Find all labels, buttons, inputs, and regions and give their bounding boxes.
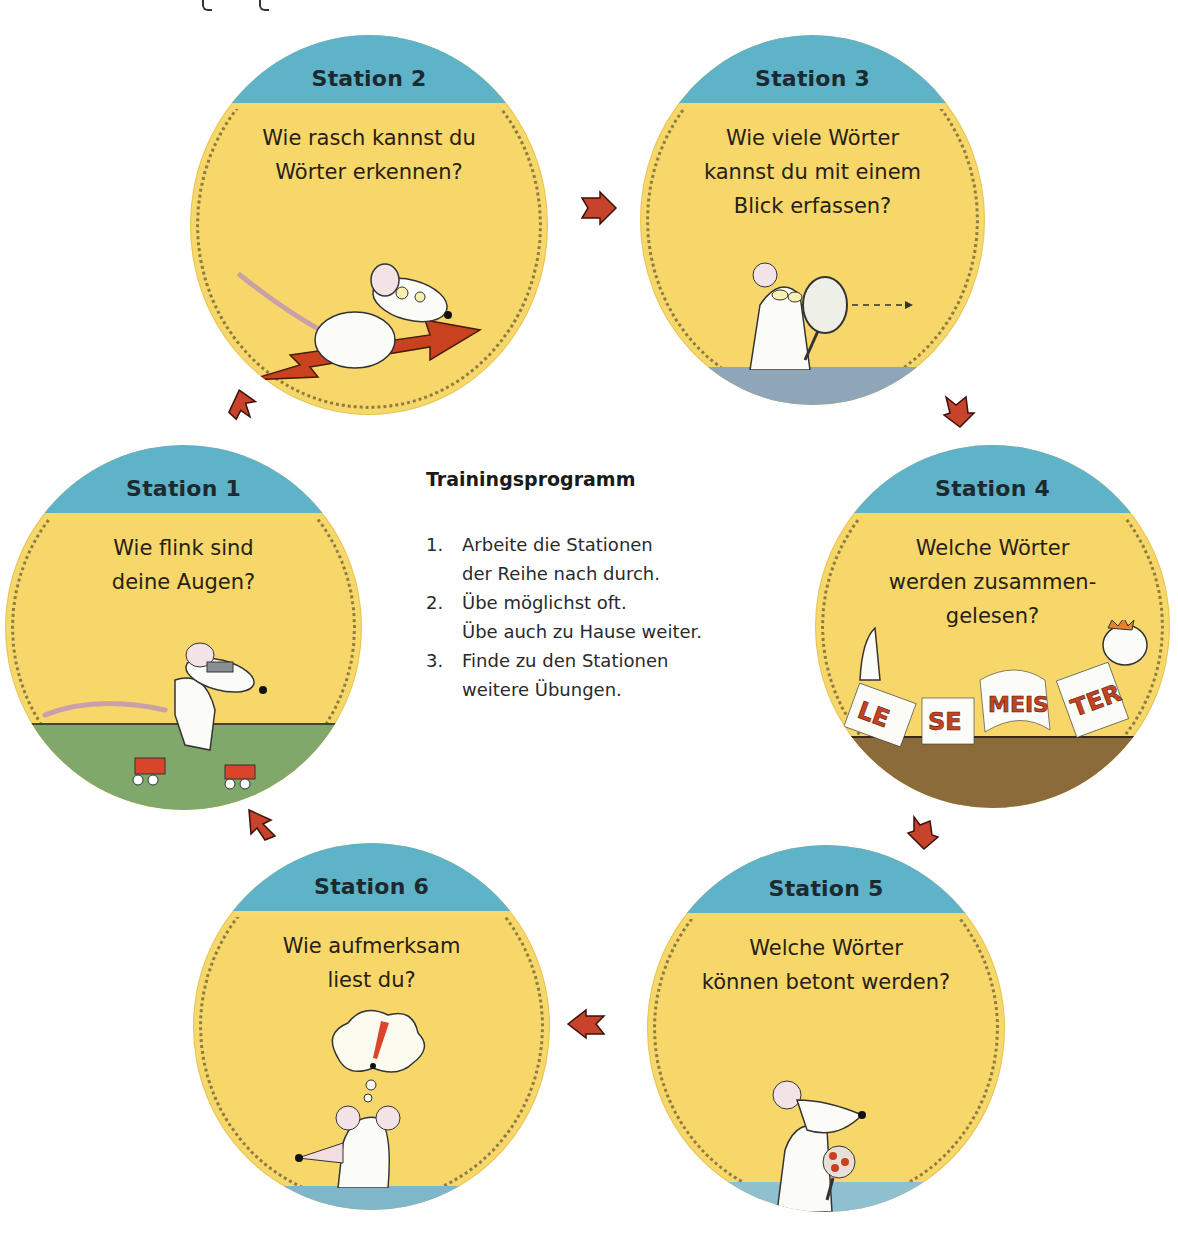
station-question: Wie viele Wörter kannst du mit einem Bli… xyxy=(670,121,955,223)
station-header: Station 2 xyxy=(190,35,548,103)
station-title: Station 1 xyxy=(126,476,241,501)
station-title: Station 3 xyxy=(755,66,870,91)
station-header: Station 1 xyxy=(5,445,362,513)
station-header: Station 6 xyxy=(193,843,550,911)
station-question: Wie aufmerksam liest du? xyxy=(223,929,520,997)
item-text: Arbeite die Stationen xyxy=(462,530,660,559)
arrow-up-icon xyxy=(222,388,262,424)
item-number: 3. xyxy=(426,646,462,704)
program-item: 2. Übe möglichst oft. Übe auch zu Hause … xyxy=(426,588,806,646)
station-3-card: Station 3 Wie viele Wörter kannst du mit… xyxy=(640,35,985,405)
station-header: Station 4 xyxy=(815,445,1170,513)
station-header: Station 5 xyxy=(647,845,1005,913)
station-5-card: Station 5 Welche Wörter können betont we… xyxy=(647,845,1005,1212)
mouse-riding-arrow-icon xyxy=(230,245,510,395)
training-program: Trainingsprogramm 1. Arbeite die Station… xyxy=(426,468,806,704)
station-4-card: Station 4 Welche Wörter werden zusammen-… xyxy=(815,445,1170,808)
mouse-with-magnifier-icon xyxy=(740,255,940,370)
item-text: Übe möglichst oft. xyxy=(462,588,702,617)
station-title: Station 4 xyxy=(935,476,1050,501)
water-ground xyxy=(193,1186,550,1210)
station-2-card: Station 2 Wie rasch kannst du Wörter erk… xyxy=(190,35,548,415)
mouse-thinking-exclamation-icon xyxy=(283,1003,463,1188)
svg-text:MEIS: MEIS xyxy=(988,692,1049,717)
item-text: der Reihe nach durch. xyxy=(462,559,660,588)
item-number: 1. xyxy=(426,530,462,588)
station-header: Station 3 xyxy=(640,35,985,103)
item-text: weitere Übungen. xyxy=(462,675,668,704)
cropped-text-fragment xyxy=(202,0,212,11)
station-6-card: Station 6 Wie aufmerksam liest du? xyxy=(193,843,550,1210)
station-title: Station 6 xyxy=(314,874,429,899)
cropped-text-fragment xyxy=(259,0,269,11)
program-heading: Trainingsprogramm xyxy=(426,468,806,490)
item-number: 2. xyxy=(426,588,462,646)
lesemeister-worm-icon: LE SE MEIS TER xyxy=(840,620,1150,750)
station-question: Wie flink sind deine Augen? xyxy=(35,531,332,599)
mouse-on-roller-skates-icon xyxy=(35,640,295,790)
arrow-down-icon xyxy=(902,815,942,851)
program-item: 3. Finde zu den Stationen weitere Übunge… xyxy=(426,646,806,704)
item-text: Übe auch zu Hause weiter. xyxy=(462,617,702,646)
station-question: Wie rasch kannst du Wörter erkennen? xyxy=(220,121,518,189)
item-text: Finde zu den Stationen xyxy=(462,646,668,675)
program-item: 1. Arbeite die Stationen der Reihe nach … xyxy=(426,530,806,588)
arrow-down-icon xyxy=(938,393,978,429)
station-question: Welche Wörter werden zusammen- gelesen? xyxy=(845,531,1140,633)
program-list: 1. Arbeite die Stationen der Reihe nach … xyxy=(426,530,806,704)
mouse-with-microphone-icon xyxy=(767,1070,907,1212)
svg-text:SE: SE xyxy=(928,708,962,736)
station-title: Station 5 xyxy=(769,876,884,901)
station-title: Station 2 xyxy=(312,66,427,91)
arrow-up-left-icon xyxy=(243,806,283,842)
water-ground xyxy=(640,367,985,405)
arrow-left-icon xyxy=(566,1006,606,1042)
arrow-right-icon xyxy=(578,190,618,226)
station-question: Welche Wörter können betont werden? xyxy=(677,931,975,999)
station-1-card: Station 1 Wie flink sind deine Augen? xyxy=(5,445,362,810)
